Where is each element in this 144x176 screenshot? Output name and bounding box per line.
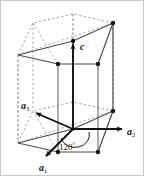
label-axis-a1: a1 — [39, 162, 47, 174]
vertex-dot — [71, 39, 75, 43]
vector-a3-arrow — [36, 113, 73, 129]
top-hexagon-diagonal-hidden-b — [33, 23, 58, 64]
vertex-dot — [111, 21, 115, 25]
vertex-dot — [111, 109, 115, 113]
top-hexagon-diagonal-hidden-a — [18, 23, 113, 55]
label-axis-a3: a3 — [21, 100, 29, 112]
vertex-dot-origin — [71, 127, 74, 130]
axis-vectors-group — [36, 44, 122, 156]
vertex-dot — [96, 62, 100, 66]
top-hexagon-hidden-edge-back — [18, 14, 113, 55]
vertex-dot — [96, 150, 100, 154]
bottom-hexagon-diagonal-hidden-a — [18, 111, 113, 143]
label-angle-120: 120° — [59, 142, 76, 152]
hexagonal-unit-cell-diagram: c a1 a2 a3 120° — [1, 1, 144, 176]
figure-frame: c a1 a2 a3 120° — [0, 0, 144, 176]
axis-labels-group: c a1 a2 a3 120° — [21, 41, 135, 174]
visible-edges-group — [18, 23, 113, 152]
vertex-dot — [56, 62, 60, 66]
label-axis-c: c — [80, 41, 85, 52]
label-axis-a2: a2 — [127, 126, 135, 138]
